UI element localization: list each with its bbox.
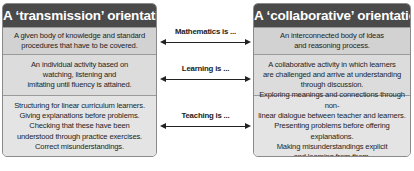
transmission-panel: A ‘transmission’ orientation A given bod… xyxy=(2,3,157,157)
connector-label: Learning is ... xyxy=(160,64,251,73)
connector-learning: Learning is ... xyxy=(160,64,251,82)
double-arrow-icon xyxy=(160,39,251,45)
transmission-learning: An individual activity based on watching… xyxy=(3,54,156,95)
collaborative-panel: A ‘collaborative’ orientation An interco… xyxy=(253,3,411,157)
collaborative-teaching: Exploring meanings and connections throu… xyxy=(254,95,410,157)
double-arrow-icon xyxy=(160,123,251,129)
collaborative-title: A ‘collaborative’ orientation xyxy=(254,4,410,27)
transmission-mathematics: A given body of knowledge and standard p… xyxy=(3,27,156,54)
transmission-title: A ‘transmission’ orientation xyxy=(3,4,156,27)
connector-label: Mathematics is ... xyxy=(160,27,251,36)
double-arrow-icon xyxy=(160,76,251,82)
transmission-teaching: Structuring for linear curriculum learne… xyxy=(3,95,156,157)
connector-teaching: Teaching is ... xyxy=(160,111,251,129)
connector-mathematics: Mathematics is ... xyxy=(160,27,251,45)
collaborative-learning: A collaborative activity in which learne… xyxy=(254,54,410,95)
connector-label: Teaching is ... xyxy=(160,111,251,120)
collaborative-mathematics: An interconnected body of ideas and reas… xyxy=(254,27,410,54)
